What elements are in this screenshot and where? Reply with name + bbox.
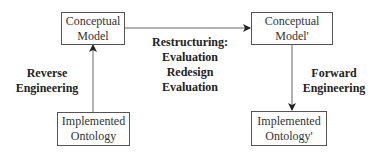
node-text: Conceptual [265, 14, 320, 29]
label-line: Reverse [12, 66, 82, 81]
node-text: Implemented [257, 114, 320, 129]
label-restructuring: Restructuring: Evaluation Redesign Evalu… [140, 35, 240, 95]
label-line: Engineering [12, 81, 82, 96]
node-conceptual-model: Conceptual Model [61, 12, 125, 45]
node-text: Ontology' [257, 129, 320, 144]
label-line: Redesign [140, 65, 240, 80]
node-implemented-ontology-prime: Implemented Ontology' [251, 111, 327, 146]
node-text: Implemented [62, 114, 125, 129]
node-conceptual-model-prime: Conceptual Model' [251, 12, 333, 45]
node-text: Conceptual [66, 14, 121, 29]
node-text: Ontology [62, 129, 125, 144]
node-text: Model' [265, 29, 320, 44]
label-reverse-engineering: Reverse Engineering [12, 66, 82, 96]
label-forward-engineering: Forward Engineering [297, 66, 371, 96]
label-line: Forward [297, 66, 371, 81]
label-line: Evaluation [140, 50, 240, 65]
label-line: Restructuring: [140, 35, 240, 50]
node-implemented-ontology: Implemented Ontology [57, 112, 130, 146]
label-line: Evaluation [140, 80, 240, 95]
node-text: Model [66, 29, 121, 44]
label-line: Engineering [297, 81, 371, 96]
